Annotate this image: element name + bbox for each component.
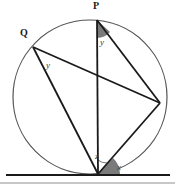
- angle-label-z-at-s: z: [95, 152, 99, 161]
- angle-arc-z-at-s: [98, 160, 107, 163]
- circle-outline: [13, 20, 167, 174]
- chord-p-r: [97, 20, 160, 103]
- chord-q-s: [33, 47, 98, 174]
- angle-label-y-at-p: y: [100, 38, 104, 47]
- geometry-figure: P Q y y z x: [0, 0, 175, 186]
- angle-label-x-at-s: x: [117, 163, 121, 172]
- vertex-label-q: Q: [20, 28, 28, 38]
- angle-label-y-at-q: y: [46, 61, 50, 70]
- vertex-label-p: P: [93, 1, 99, 11]
